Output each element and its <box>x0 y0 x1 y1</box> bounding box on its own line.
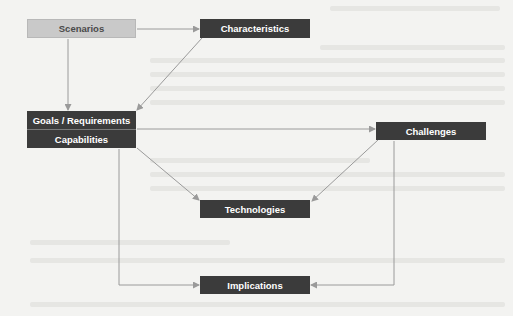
edge-capabilities-implications <box>119 149 199 285</box>
node-technologies: Technologies <box>200 200 310 218</box>
edge-challenges-technologies <box>312 140 378 201</box>
node-implications: Implications <box>200 276 310 294</box>
node-characteristics: Characteristics <box>200 19 310 38</box>
node-capabilities: Capabilities <box>27 130 136 148</box>
node-goals-capabilities: Goals / Requirements Capabilities <box>27 111 136 148</box>
edge-challenges-implications <box>311 141 394 285</box>
node-scenarios: Scenarios <box>27 19 136 38</box>
connectors <box>0 0 513 316</box>
node-challenges: Challenges <box>376 122 486 140</box>
edge-characteristics-goals <box>137 38 202 110</box>
node-goals-requirements: Goals / Requirements <box>27 111 136 129</box>
edge-goals-technologies <box>137 148 199 200</box>
